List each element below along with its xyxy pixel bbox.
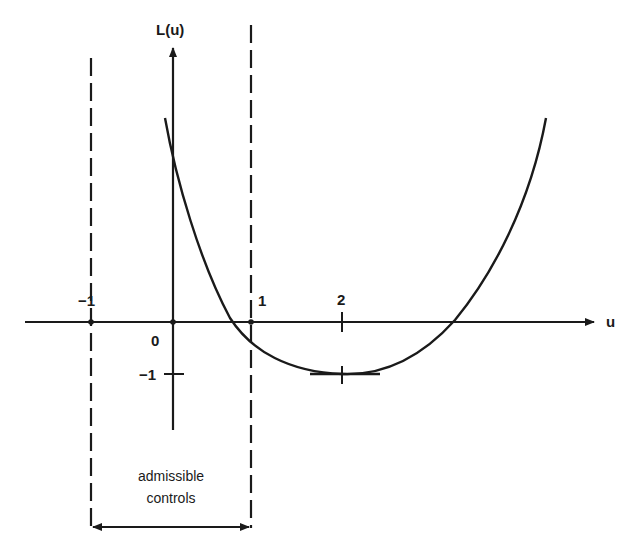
caption-line-1: admissible xyxy=(91,465,251,487)
tick-x-0 xyxy=(170,319,176,325)
tick-label-x-0: 0 xyxy=(151,333,159,348)
tick-label-x-1: 1 xyxy=(258,293,266,308)
tick-label-x-2: 2 xyxy=(337,292,345,307)
caption-line-2: controls xyxy=(91,487,251,509)
tick-x-neg1 xyxy=(88,319,94,325)
y-axis-label: L(u) xyxy=(156,22,184,37)
tick-x-1 xyxy=(248,319,254,325)
cost-curve xyxy=(165,118,546,374)
tick-label-y-neg1: −1 xyxy=(139,367,156,382)
tick-label-x-neg1: −1 xyxy=(78,293,95,308)
admissible-controls-caption: admissible controls xyxy=(91,465,251,509)
x-axis-label: u xyxy=(606,314,615,329)
